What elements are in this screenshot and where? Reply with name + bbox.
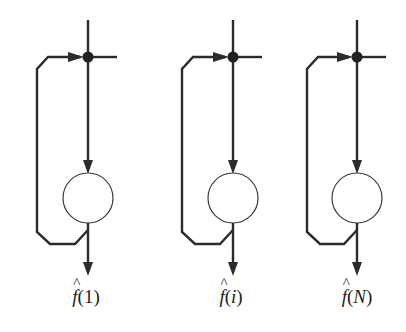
feedback-arrow-icon <box>68 52 84 62</box>
output-label-N: ^f(N) <box>342 286 373 308</box>
paren-close: ) <box>236 286 242 307</box>
paren-close: ) <box>366 286 372 307</box>
processing-circle <box>208 173 258 223</box>
feedback-arrow-icon <box>337 52 353 62</box>
junction-node <box>228 52 239 63</box>
down-arrow-icon <box>352 160 362 174</box>
hat-accent: ^ <box>73 275 80 292</box>
processing-circle <box>63 173 113 223</box>
hat-accent: ^ <box>220 275 227 292</box>
down-arrow-icon <box>228 160 238 174</box>
junction-node <box>83 52 94 63</box>
feedback-arrow-icon <box>213 52 229 62</box>
label-arg: 1 <box>84 286 94 307</box>
hat-accent: ^ <box>343 275 350 292</box>
output-label-i: ^f(i) <box>219 286 242 308</box>
accumulator-unit-i <box>182 20 262 276</box>
output-arrow-icon <box>228 262 238 276</box>
junction-node <box>352 52 363 63</box>
paren-close: ) <box>93 286 99 307</box>
accumulator-unit-1 <box>37 20 117 276</box>
output-arrow-icon <box>352 262 362 276</box>
output-label-1: ^f(1) <box>72 286 99 308</box>
down-arrow-icon <box>83 160 93 174</box>
output-arrow-icon <box>83 262 93 276</box>
accumulator-unit-N <box>307 20 386 276</box>
processing-circle <box>332 173 382 223</box>
label-arg: N <box>353 286 366 307</box>
